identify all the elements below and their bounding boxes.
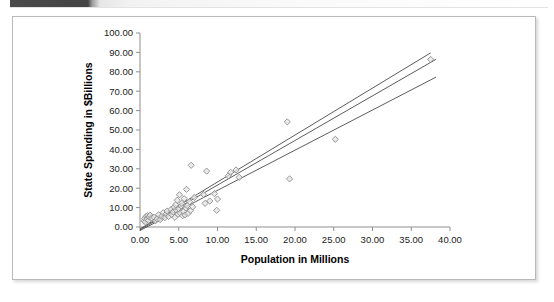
y-axis-title: State Spending in $Billions [82, 62, 94, 198]
x-tick-label: 30.00 [361, 234, 385, 245]
data-point [332, 136, 338, 142]
x-tick-label: 40.00 [438, 234, 462, 245]
data-point [211, 191, 217, 197]
y-tick-label: 50.00 [109, 124, 133, 135]
scatter-plot: 0.0010.0020.0030.0040.0050.0060.0070.008… [13, 17, 537, 281]
axis-labels-layer: 0.0010.0020.0030.0040.0050.0060.0070.008… [82, 27, 462, 265]
y-tick-label: 70.00 [109, 86, 133, 97]
chart-card: 0.0010.0020.0030.0040.0050.0060.0070.008… [12, 16, 536, 280]
header-rule [10, 7, 548, 8]
y-tick-label: 80.00 [109, 66, 133, 77]
data-point [188, 162, 194, 168]
page-header-band [0, 0, 554, 8]
y-tick-label: 40.00 [109, 144, 133, 155]
data-point [183, 186, 189, 192]
x-tick-label: 0.00 [131, 234, 150, 245]
y-tick-label: 0.00 [115, 221, 134, 232]
x-tick-label: 15.00 [244, 234, 268, 245]
data-point [214, 196, 220, 202]
y-tick-label: 100.00 [104, 27, 133, 38]
y-tick-label: 90.00 [109, 47, 133, 58]
data-point [286, 176, 292, 182]
y-tick-label: 10.00 [109, 202, 133, 213]
data-point [236, 174, 242, 180]
x-tick-label: 25.00 [322, 234, 346, 245]
y-tick-label: 30.00 [109, 163, 133, 174]
data-point [204, 168, 210, 174]
x-tick-label: 20.00 [283, 234, 307, 245]
x-tick-label: 35.00 [399, 234, 423, 245]
data-point [284, 119, 290, 125]
data-point [214, 207, 220, 213]
x-axis-title: Population in Millions [241, 253, 350, 265]
x-tick-label: 10.00 [206, 234, 230, 245]
y-tick-label: 60.00 [109, 105, 133, 116]
y-tick-label: 20.00 [109, 183, 133, 194]
data-points-layer [141, 56, 434, 225]
x-tick-label: 5.00 [170, 234, 189, 245]
